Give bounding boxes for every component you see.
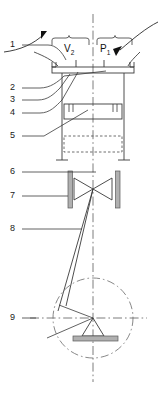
crank-arm-upper [59, 305, 93, 318]
arrow-left-curve-2 [34, 52, 58, 66]
annotation-p1-subscript: 1 [107, 49, 111, 56]
annotation-v2-symbol: V [64, 43, 71, 54]
callout-leader-4-path [40, 72, 78, 113]
callout-number-9[interactable]: 9 [10, 313, 15, 322]
arrow-left-head [41, 31, 47, 39]
callout-number-4[interactable]: 4 [10, 108, 15, 117]
annotation-p1: P1 [100, 44, 110, 57]
callout-leader-3-path [38, 74, 70, 100]
valve-seat-right [116, 171, 121, 208]
callout-number-1[interactable]: 1 [10, 40, 15, 49]
arrow-right-curve [120, 22, 158, 50]
arrow-right-head [113, 46, 122, 56]
callout-number-3[interactable]: 3 [10, 95, 15, 104]
valve-seat-left [68, 171, 73, 208]
technical-diagram-canvas [0, 0, 158, 393]
annotation-p1-symbol: P [100, 43, 107, 54]
butterfly-valve-right-vane [93, 178, 112, 200]
annotation-v2-subscript: 2 [71, 49, 75, 56]
callout-number-8[interactable]: 8 [10, 224, 15, 233]
annotation-v2: V2 [64, 44, 74, 57]
callout-number-7[interactable]: 7 [10, 191, 15, 200]
callout-leader-2-path [40, 71, 106, 88]
ground-support-bar [73, 336, 118, 341]
callout-number-2[interactable]: 2 [10, 83, 15, 92]
callout-number-6[interactable]: 6 [10, 167, 15, 176]
linkage-rod-outer [58, 189, 93, 311]
butterfly-valve-left-vane [74, 178, 93, 200]
callout-number-5[interactable]: 5 [10, 131, 15, 140]
callout-leader-5-path [44, 110, 88, 136]
